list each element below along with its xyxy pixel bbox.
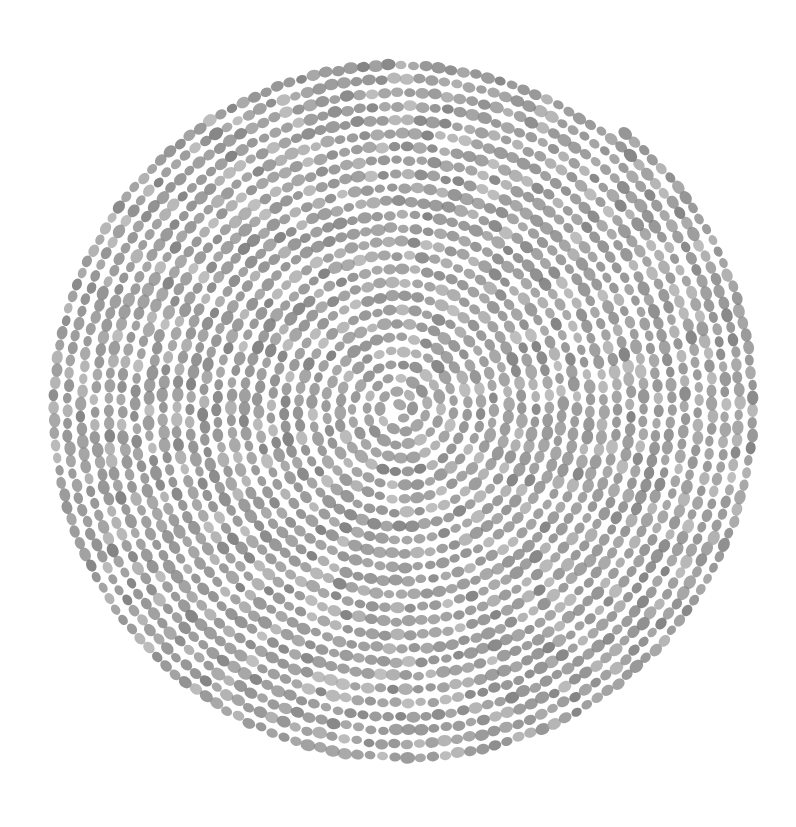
dotted-spiral-figure [0,0,796,827]
spiral-bead [185,404,194,416]
spiral-bead [391,156,402,164]
spiral-bead [625,399,634,411]
spiral-bead [91,407,100,418]
spiral-bead [391,252,402,261]
spiral-bead [396,590,408,599]
spiral-bead [706,396,717,411]
spiral-bead [211,403,221,416]
spiral-bead [144,404,154,417]
spiral-bead [104,405,114,418]
spiral-bead [118,406,128,418]
spiral-bead [48,401,59,415]
spiral-bead [721,398,731,411]
spiral-bead [395,712,406,721]
spiral-bead [680,401,689,413]
spiral-bead [391,87,403,97]
spiral-bead [396,644,408,653]
spiral-artwork-canvas [0,0,796,827]
spiral-bead [392,195,406,206]
spiral-bead [391,102,404,112]
spiral-bead [63,404,73,417]
